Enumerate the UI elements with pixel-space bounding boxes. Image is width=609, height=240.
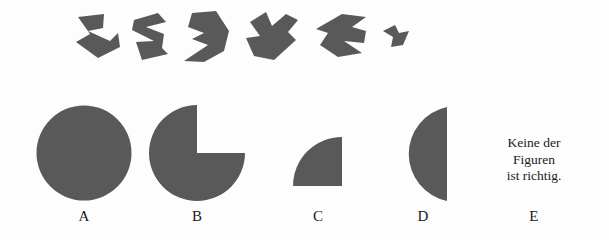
answer-option-d[interactable] [398, 106, 448, 202]
puzzle-piece-2 [128, 10, 172, 62]
puzzle-piece-4 [244, 10, 300, 64]
answer-option-b[interactable] [148, 104, 246, 202]
puzzle-pieces-row [0, 0, 609, 90]
answer-option-c[interactable] [293, 137, 343, 187]
puzzle-piece-6 [381, 23, 411, 49]
answer-option-e[interactable]: Keine der Figuren ist richtig. [478, 135, 590, 185]
answer-option-d-label: D [373, 208, 473, 224]
puzzle-page: A B C D Keine der Figuren ist richtig. [0, 0, 609, 240]
quarter-circle-shape[interactable] [293, 137, 343, 187]
answer-option-a[interactable] [36, 105, 132, 201]
full-circle-shape[interactable] [36, 105, 132, 201]
fragment-6-icon [381, 23, 411, 49]
puzzle-piece-3 [182, 9, 232, 64]
answer-options-row: A B C D Keine der Figuren ist richtig. [0, 90, 609, 240]
half-circle-shape[interactable] [398, 106, 448, 202]
fragment-4-icon [244, 10, 300, 64]
fragment-1-icon [74, 11, 122, 59]
answer-option-a-label: A [36, 208, 132, 224]
fragment-3-icon [182, 9, 232, 64]
pacman-three-quarter-circle-shape[interactable] [148, 104, 246, 202]
puzzle-piece-1 [74, 11, 122, 59]
fragment-5-icon [314, 11, 368, 59]
puzzle-piece-5 [314, 11, 368, 59]
option-e-line-2: Figuren [478, 152, 590, 169]
answer-option-b-label: B [148, 208, 246, 224]
option-e-line-3: ist richtig. [478, 168, 590, 185]
answer-option-e-label: E [478, 208, 590, 224]
option-e-line-1: Keine der [478, 135, 590, 152]
fragment-2-icon [128, 10, 172, 62]
answer-option-c-label: C [268, 208, 368, 224]
